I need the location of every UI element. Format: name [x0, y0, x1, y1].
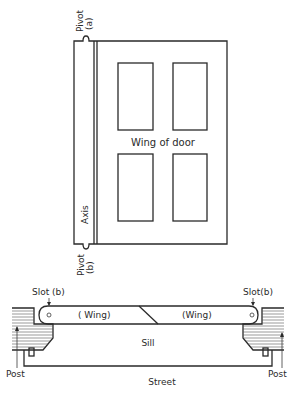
sill-outline [24, 350, 272, 366]
post-left-stop [29, 348, 34, 356]
post-right-stop [263, 348, 268, 356]
door-elevation: Pivot (a) Wing of door Axis Pivot (b) [74, 9, 227, 276]
post-right [243, 308, 284, 356]
post-left-arrowhead-icon [15, 326, 19, 331]
wing-joint-diagonal [139, 306, 158, 324]
post-left-label: Post [6, 369, 25, 379]
wing-right-label: (Wing) [182, 310, 212, 320]
street-label: Street [148, 377, 176, 387]
slot-left-label: Slot (b) [32, 287, 65, 297]
door-panel-top-left [118, 63, 153, 130]
slot-left-hole [47, 313, 51, 317]
slot-right-label: Slot(b) [243, 287, 273, 297]
wing-of-door-label: Wing of door [131, 137, 196, 148]
pivot-bottom-sub-label: (b) [85, 261, 95, 274]
post-right-hatching [243, 311, 284, 347]
door-plan: Slot (b) Slot(b) ( Wing) (Wing) Sill Pos… [6, 287, 287, 387]
door-panel-bottom-right [173, 154, 207, 221]
post-right-arrowhead-icon [280, 332, 284, 337]
door-panel-top-right [173, 63, 207, 130]
post-right-label: Post [268, 369, 287, 379]
door-panel-bottom-left [118, 154, 153, 221]
slot-right-hole [250, 313, 254, 317]
pivot-top-sub-label: (a) [84, 17, 94, 30]
slot-right-arrowhead-icon [251, 302, 255, 306]
sill-label: Sill [141, 338, 154, 348]
wing-left-label: ( Wing) [78, 310, 111, 320]
axis-label: Axis [80, 205, 90, 224]
door-diagram: Pivot (a) Wing of door Axis Pivot (b) [0, 0, 296, 397]
